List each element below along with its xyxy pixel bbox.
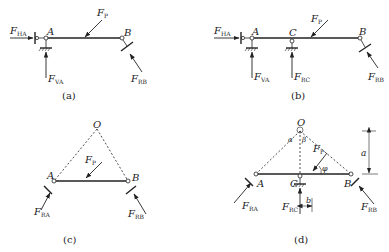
label-frb: FRB [130, 73, 147, 85]
caption-c: (c) [63, 234, 77, 245]
label-frb: FRB [360, 201, 377, 213]
label-a: A [251, 26, 259, 37]
force-frb-arrow [367, 52, 378, 68]
pin-c [290, 39, 294, 43]
label-fp: FP [312, 143, 324, 155]
label-fp: FP [84, 154, 96, 166]
dashed-line-oa [256, 131, 300, 174]
force-frb-arrow [130, 54, 142, 72]
label-o: O [93, 119, 101, 130]
caption-b: (b) [291, 90, 305, 101]
panel-c: O A FRA FP B FRB (c) [33, 119, 146, 245]
label-b: B [358, 26, 366, 37]
label-fra: FRA [241, 200, 258, 212]
panel-a: FHA A FVA FP B FRB (a) [9, 7, 147, 101]
label-a: A [46, 26, 54, 37]
label-phi: φ [322, 164, 328, 173]
label-o: O [297, 117, 305, 128]
label-fp: FP [310, 13, 322, 25]
label-frc: FRC [281, 201, 298, 213]
label-a-dim: a [361, 148, 366, 158]
panel-d: O α β A FRA C FRC b FP φ B FRB [234, 117, 378, 245]
hinge-a [35, 36, 38, 39]
ground-b [121, 42, 133, 51]
pin-a [254, 172, 258, 176]
label-alpha: α [288, 136, 293, 144]
label-c: C [289, 27, 297, 38]
statics-diagram: FHA A FVA FP B FRB (a) FHA A FVA C [0, 0, 389, 252]
force-fp-arrow [85, 20, 102, 37]
label-fha: FHA [9, 25, 27, 37]
label-a: A [256, 178, 264, 189]
caption-a: (a) [62, 90, 76, 101]
force-frb-arrow [134, 194, 146, 214]
label-b: B [343, 178, 351, 189]
label-fva: FVA [253, 71, 270, 83]
panel-b: FHA A FVA C FRC FP B FRB (b) [213, 13, 384, 101]
caption-d: (d) [294, 234, 308, 245]
label-frc: FRC [293, 71, 310, 83]
label-beta: β [301, 136, 306, 144]
label-b-dim: b [306, 196, 311, 205]
label-frb: FRB [367, 71, 384, 83]
dashed-line-ob [97, 129, 128, 181]
label-a: A [46, 170, 54, 181]
label-frb: FRB [127, 208, 144, 220]
force-fra-arrow [41, 193, 50, 210]
pin-c [298, 174, 302, 178]
label-fva: FVA [47, 73, 64, 85]
pin-b [126, 179, 130, 183]
label-b: B [123, 27, 131, 38]
pin-b [349, 172, 353, 176]
label-fha: FHA [213, 25, 231, 37]
label-fp: FP [96, 7, 108, 19]
label-b: B [131, 172, 139, 183]
